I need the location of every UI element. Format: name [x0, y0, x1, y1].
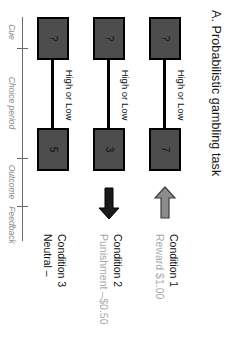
- condition-caption: Condition 2 Punishment –$0.50: [97, 234, 125, 354]
- cue-box: ?: [149, 17, 181, 60]
- condition-name: Condition 2: [111, 234, 125, 354]
- axis-label-choice-period: Choice period: [7, 77, 17, 129]
- axis-tick: [17, 158, 28, 159]
- axis-label-outcome: Outcome: [7, 165, 17, 200]
- neutral-dash-icon: [39, 186, 67, 220]
- outcome-box: 5: [37, 128, 69, 171]
- condition-detail: Neutral –: [41, 234, 55, 354]
- condition-detail: Reward $1.00: [153, 234, 167, 354]
- outcome-box: 7: [149, 128, 181, 171]
- right-arrow-icon: [95, 186, 123, 220]
- condition-detail: Punishment –$0.50: [97, 234, 111, 354]
- left-arrow-icon: [151, 186, 179, 220]
- axis-line: [22, 17, 23, 241]
- axis-tick: [17, 206, 28, 207]
- outcome-box: 3: [93, 128, 125, 171]
- cue-box: ?: [37, 17, 69, 60]
- axis-label-cue: Cue: [7, 24, 17, 40]
- panel-title: A. Probabilistic gambling task: [209, 10, 223, 176]
- condition-name: Condition 1: [167, 234, 181, 354]
- timeline-axis: Cue Choice period Outcome Feedback: [3, 10, 23, 242]
- choice-period-label: High or Low: [120, 62, 131, 128]
- cue-box: ?: [93, 17, 125, 60]
- choice-period-label: High or Low: [64, 62, 75, 128]
- trial-connector: [51, 60, 54, 128]
- condition-caption: Condition 3 Neutral –: [41, 234, 69, 354]
- trial-connector: [107, 60, 110, 128]
- figure-canvas: A. Probabilistic gambling task ? High or…: [0, 0, 229, 359]
- condition-caption: Condition 1 Reward $1.00: [153, 234, 181, 354]
- condition-name: Condition 3: [55, 234, 69, 354]
- axis-tick: [17, 48, 28, 49]
- choice-period-label: High or Low: [176, 62, 187, 128]
- trial-connector: [163, 60, 166, 128]
- axis-label-feedback: Feedback: [7, 206, 17, 243]
